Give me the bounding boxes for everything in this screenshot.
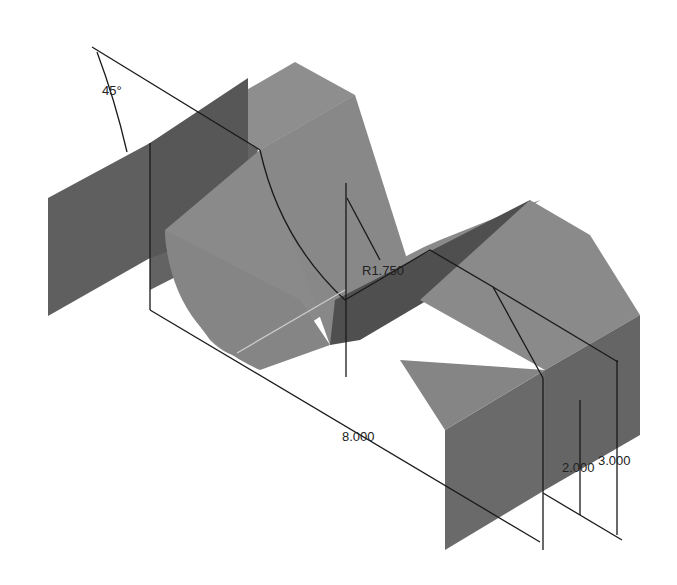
angle-arc [97,52,127,152]
angle-label: 45° [102,83,122,98]
length-label: 8.000 [342,429,375,444]
radius-label: R1.750 [362,263,404,278]
height-outer-label: 3.000 [598,453,631,468]
cad-drawing: 45° R1.750 8.000 2.000 3.000 [0,0,677,585]
height-inner-label: 2.000 [562,460,595,475]
left-flange-face [48,143,150,316]
base-ext-line [543,493,622,540]
